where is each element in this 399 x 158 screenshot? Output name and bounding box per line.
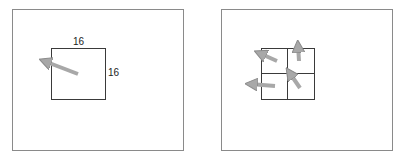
- motion-vectors: [0, 0, 399, 158]
- motion-vector-arrow-icon: [298, 45, 299, 61]
- motion-vector-arrow-icon: [44, 61, 78, 74]
- motion-vector-arrow-icon: [289, 72, 300, 88]
- motion-vector-arrow-icon: [259, 53, 277, 61]
- motion-vector-arrow-icon: [250, 84, 275, 86]
